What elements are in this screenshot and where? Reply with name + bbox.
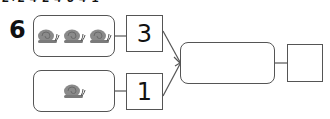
answer-box[interactable]	[287, 44, 323, 82]
top-snail-group	[34, 16, 114, 56]
bottom-count-value: 1	[137, 78, 152, 106]
snail-icon	[36, 28, 60, 44]
arrow-top-line	[163, 31, 180, 62]
top-count-value: 3	[137, 20, 152, 48]
result-drawing-box[interactable]	[180, 42, 275, 84]
bottom-group-box	[33, 70, 115, 112]
arrow-bottom-line	[163, 64, 180, 96]
bottom-count-box: 1	[126, 73, 163, 110]
bottom-snail-group	[34, 71, 114, 111]
top-count-box: 3	[126, 15, 163, 52]
top-group-box	[33, 15, 115, 57]
snail-icon	[62, 83, 86, 99]
snail-icon	[62, 28, 86, 44]
snail-icon	[88, 28, 112, 44]
